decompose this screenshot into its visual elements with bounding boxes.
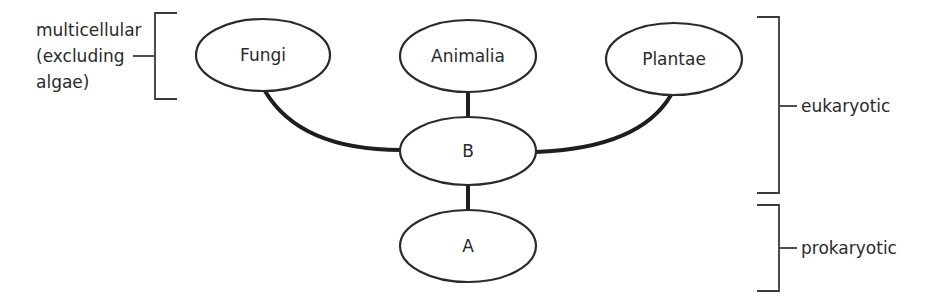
b-label: B	[462, 141, 474, 161]
edge-b-plantae	[536, 95, 671, 152]
node-animalia: Animalia	[400, 20, 536, 92]
a-label: A	[462, 236, 474, 256]
multicellular-annotation: multicellular (excluding algae)	[36, 13, 177, 99]
multicellular-label-line-3: algae)	[36, 72, 89, 92]
eukaryotic-label: eukaryotic	[801, 96, 890, 116]
animalia-label: Animalia	[431, 46, 505, 66]
multicellular-label-line-2: (excluding	[36, 46, 124, 66]
multicellular-bracket	[155, 13, 177, 99]
node-a: A	[400, 210, 536, 282]
prokaryotic-label: prokaryotic	[801, 238, 897, 258]
node-b: B	[400, 117, 536, 185]
prokaryotic-bracket	[757, 205, 779, 291]
tree-diagram: Fungi Animalia Plantae B A multicellular…	[0, 0, 939, 307]
prokaryotic-annotation: prokaryotic	[757, 205, 897, 291]
plantae-label: Plantae	[642, 49, 706, 69]
node-plantae: Plantae	[606, 23, 742, 95]
eukaryotic-annotation: eukaryotic	[757, 17, 890, 193]
fungi-label: Fungi	[240, 45, 286, 65]
multicellular-label-line-1: multicellular	[36, 20, 142, 40]
node-fungi: Fungi	[196, 19, 330, 91]
eukaryotic-bracket	[757, 17, 779, 193]
edge-b-fungi	[265, 91, 401, 150]
